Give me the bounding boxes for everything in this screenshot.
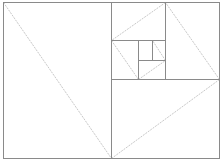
diagonal-line	[112, 41, 139, 80]
diagonal-line	[153, 41, 166, 61]
diagonal-line	[139, 61, 166, 80]
golden-ratio-diagram	[0, 0, 223, 165]
square-divisions	[112, 3, 220, 159]
diagonal-line	[166, 3, 220, 80]
diagonal-line	[4, 3, 112, 159]
diagonal-line	[112, 3, 166, 41]
diagonal-line	[112, 80, 220, 159]
